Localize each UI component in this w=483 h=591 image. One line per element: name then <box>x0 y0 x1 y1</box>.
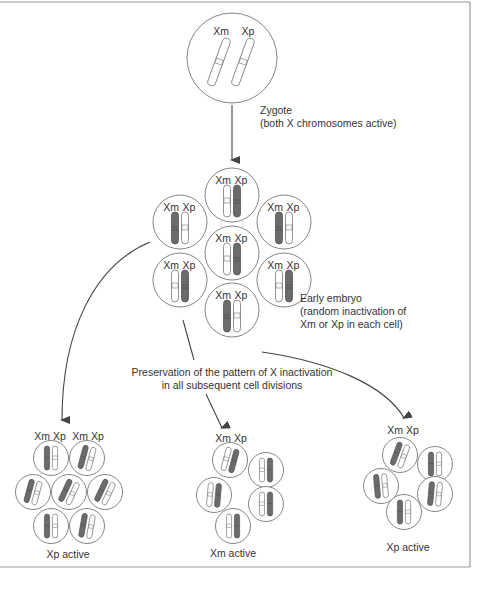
svg-text:Xm: Xm <box>163 201 179 213</box>
middle-cluster: Xm Xp Xm active <box>197 432 284 559</box>
zygote-caption-2: (both X chromosomes active) <box>260 117 397 129</box>
svg-text:Xp: Xp <box>235 232 248 244</box>
svg-text:Xp: Xp <box>287 201 300 213</box>
embryo-caption-3: Xm or Xp in each cell) <box>300 318 403 330</box>
early-embryo: Xm Xp Xm Xp Xm Xp Xm Xp <box>153 168 311 337</box>
embryo-cell-upper-right: Xm Xp <box>257 195 311 249</box>
right-cluster: Xm Xp Xp active <box>364 424 453 553</box>
svg-text:Xm: Xm <box>215 174 231 186</box>
svg-text:Xp: Xp <box>183 201 196 213</box>
right-cluster-label: Xm Xp <box>387 424 419 436</box>
arrow-to-middle-cluster-upper <box>183 320 194 360</box>
svg-text:Xm: Xm <box>215 289 231 301</box>
embryo-cell-lower-left: Xm Xp <box>153 253 207 307</box>
preservation-caption-2: in all subsequent cell divisions <box>162 379 303 391</box>
embryo-caption-1: Early embryo <box>300 292 362 304</box>
left-cluster-caption: Xp active <box>46 548 89 560</box>
preservation-caption-1: Preservation of the pattern of X inactiv… <box>132 366 333 378</box>
right-cluster-caption: Xp active <box>386 541 429 553</box>
zygote-label-xm: Xm <box>213 25 229 37</box>
zygote-label-xp: Xp <box>242 25 255 37</box>
middle-cluster-caption: Xm active <box>210 547 256 559</box>
embryo-cell-bottom: Xm Xp <box>205 283 259 337</box>
embryo-caption-2: (random inactivation of <box>300 305 406 317</box>
x-inactivation-diagram: Xm Xp Zygote (both X chromosomes active)… <box>0 0 483 591</box>
svg-text:Xm: Xm <box>267 201 283 213</box>
svg-text:Xp: Xp <box>287 259 300 271</box>
zygote-caption-1: Zygote <box>260 104 292 116</box>
embryo-cell-center: Xm Xp <box>205 226 259 280</box>
svg-text:Xm: Xm <box>215 232 231 244</box>
arrow-to-middle-cluster-lower <box>206 394 222 428</box>
arrow-to-left-cluster <box>62 242 150 420</box>
embryo-cell-upper-left: Xm Xp <box>153 195 207 249</box>
zygote-cell: Xm Xp <box>187 13 277 103</box>
left-cluster: Xm Xp Xm Xp Xp active <box>16 430 123 560</box>
svg-text:Xm: Xm <box>163 259 179 271</box>
embryo-cell-top: Xm Xp <box>205 168 259 222</box>
svg-text:Xp: Xp <box>235 289 248 301</box>
svg-text:Xp: Xp <box>235 174 248 186</box>
svg-text:Xp: Xp <box>183 259 196 271</box>
svg-text:Xm: Xm <box>267 259 283 271</box>
